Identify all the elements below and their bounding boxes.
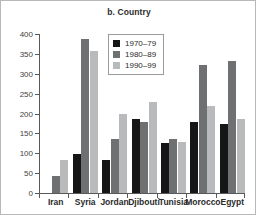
bar-jordan-197079 xyxy=(102,160,110,193)
y-tick-mark xyxy=(35,153,39,154)
legend-swatch-icon xyxy=(113,40,120,47)
y-tick-mark xyxy=(35,133,39,134)
bar-morocco-198089 xyxy=(199,65,207,193)
x-axis-labels: IranSyriaJordanDjiboutiTunisiaMoroccoEgy… xyxy=(39,197,245,213)
y-tick-mark xyxy=(35,34,39,35)
y-tick-label: 200 xyxy=(20,109,33,118)
bar-djibouti-199099 xyxy=(149,102,157,193)
bar-egypt-198089 xyxy=(228,61,236,193)
bar-iran-199099 xyxy=(60,160,68,193)
y-tick-label: 350 xyxy=(20,49,33,58)
chart-legend: 1970–791980–891990–99 xyxy=(108,34,164,75)
legend-label: 1990–99 xyxy=(125,61,156,70)
x-label-djibouti: Djibouti xyxy=(128,197,160,207)
bar-morocco-199099 xyxy=(207,106,215,193)
x-label-syria: Syria xyxy=(75,197,96,207)
chart-title: b. Country xyxy=(1,7,256,17)
legend-item-198089: 1980–89 xyxy=(113,49,156,60)
chart-figure: b. Country 050100150200250300350400 Iran… xyxy=(0,0,256,215)
bar-jordan-198089 xyxy=(111,139,119,193)
bar-iran-198089 xyxy=(52,176,60,193)
legend-swatch-icon xyxy=(113,62,120,69)
bar-group-syria xyxy=(73,34,98,193)
bar-tunisia-199099 xyxy=(178,142,186,193)
y-tick-mark xyxy=(35,173,39,174)
x-label-iran: Iran xyxy=(48,197,64,207)
y-tick-mark xyxy=(35,114,39,115)
y-tick-mark xyxy=(35,54,39,55)
bar-group-tunisia xyxy=(161,34,186,193)
x-label-egypt: Egypt xyxy=(220,197,244,207)
bar-syria-198089 xyxy=(81,39,89,193)
y-tick-mark xyxy=(35,94,39,95)
y-tick-label: 250 xyxy=(20,89,33,98)
y-tick-label: 150 xyxy=(20,129,33,138)
bar-tunisia-198089 xyxy=(169,139,177,193)
legend-swatch-icon xyxy=(113,51,120,58)
bar-egypt-199099 xyxy=(237,119,245,193)
bar-group-morocco xyxy=(190,34,215,193)
x-label-jordan: Jordan xyxy=(100,197,128,207)
bar-djibouti-197079 xyxy=(132,119,140,193)
bar-djibouti-198089 xyxy=(140,122,148,193)
x-axis-line xyxy=(39,193,245,194)
y-tick-label: 100 xyxy=(20,149,33,158)
bar-morocco-197079 xyxy=(190,122,198,193)
bar-group-iran xyxy=(43,34,68,193)
x-label-tunisia: Tunisia xyxy=(159,197,188,207)
y-tick-mark xyxy=(35,74,39,75)
x-label-morocco: Morocco xyxy=(185,197,220,207)
y-tick-label: 400 xyxy=(20,30,33,39)
legend-item-199099: 1990–99 xyxy=(113,60,156,71)
legend-label: 1980–89 xyxy=(125,50,156,59)
bar-group-egypt xyxy=(220,34,245,193)
bar-egypt-197079 xyxy=(220,124,228,193)
legend-label: 1970–79 xyxy=(125,39,156,48)
bar-tunisia-197079 xyxy=(161,143,169,193)
y-axis-line xyxy=(39,34,40,194)
y-tick-label: 50 xyxy=(24,169,33,178)
bar-syria-199099 xyxy=(90,51,98,193)
bar-syria-197079 xyxy=(73,154,81,193)
legend-item-197079: 1970–79 xyxy=(113,38,156,49)
y-tick-label: 300 xyxy=(20,69,33,78)
bar-jordan-199099 xyxy=(119,114,127,193)
y-tick-label: 0 xyxy=(29,189,33,198)
